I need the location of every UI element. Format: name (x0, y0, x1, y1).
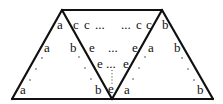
label-c4: c (146, 17, 152, 32)
dot (187, 68, 189, 70)
label-bottom-e: e (108, 81, 114, 96)
triangle-diagram: a a a b b c c ... ... c c e ... e e ... … (0, 0, 223, 104)
label-right-bottom-b: b (197, 82, 204, 97)
label-left-top-a: a (57, 17, 63, 32)
label-right-top-b: b (162, 17, 169, 32)
right-triangle-labels: b b b (162, 17, 204, 97)
label-right-mid-b: b (174, 40, 181, 55)
dot (90, 78, 92, 80)
label-left-bottom-a: a (20, 82, 26, 97)
dot (29, 79, 31, 81)
dot (84, 67, 86, 69)
label-c2: c (84, 17, 90, 32)
label-mid-right-bottom-a: a (124, 82, 130, 97)
dot (181, 57, 183, 59)
label-row3-e-left: e (97, 56, 103, 71)
right-outer-edge (162, 10, 213, 99)
diagram-canvas: a a a b b c c ... ... c c e ... e e ... … (0, 0, 223, 104)
label-row2-e-right: e (132, 40, 138, 55)
dot (138, 67, 140, 69)
label-top-ellipsis-right: ... (121, 17, 131, 32)
dot (78, 56, 80, 58)
dot (193, 79, 195, 81)
label-row3-ellipsis: ... (106, 56, 116, 71)
dot (144, 56, 146, 58)
dot (35, 68, 37, 70)
label-mid-right-top-a: a (148, 40, 154, 55)
label-left-mid-a: a (44, 40, 50, 55)
label-row2-ellipsis: ... (108, 40, 118, 55)
dot (132, 78, 134, 80)
label-mid-left-top-b: b (70, 40, 77, 55)
middle-triangle-labels: c c ... ... c c e ... e e ... e e a a (73, 17, 154, 97)
dot (41, 57, 43, 59)
label-top-ellipsis-left: ... (95, 17, 105, 32)
label-c3: c (136, 17, 142, 32)
label-row2-e-left: e (89, 40, 95, 55)
label-mid-left-bottom-b: b (95, 82, 102, 97)
label-row3-e-right: e (123, 56, 129, 71)
label-c1: c (73, 17, 79, 32)
